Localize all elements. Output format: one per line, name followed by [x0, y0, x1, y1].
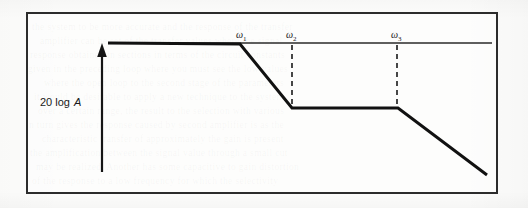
- omega-symbol: ω: [236, 29, 243, 40]
- magnitude-asymptote-curve: [108, 43, 487, 175]
- y-axis-arrow: [97, 43, 107, 172]
- breakpoint-label-omega1: ω1: [236, 29, 247, 43]
- omega-subscript: 2: [293, 35, 297, 43]
- omega-subscript: 3: [398, 35, 402, 43]
- omega-subscript: 1: [243, 35, 247, 43]
- breakpoint-label-omega3: ω3: [391, 29, 402, 43]
- y-axis-label-prefix: 20 log: [40, 96, 70, 108]
- figure-screenshot: the system to be more accurate and the r…: [0, 0, 528, 208]
- omega-symbol: ω: [391, 29, 398, 40]
- y-axis-label: 20 logA: [40, 96, 81, 108]
- omega-symbol: ω: [286, 29, 293, 40]
- y-axis-label-variable: A: [70, 96, 81, 108]
- breakpoint-label-omega2: ω2: [286, 29, 297, 43]
